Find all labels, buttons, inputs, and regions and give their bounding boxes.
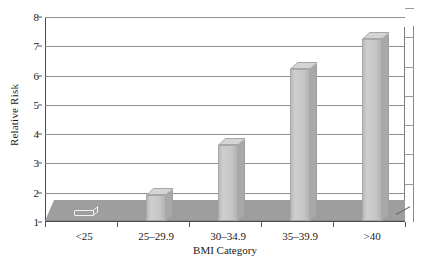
bar-side-face bbox=[382, 34, 389, 221]
gridline-depth bbox=[405, 154, 414, 155]
gridline-depth bbox=[405, 8, 414, 9]
bar[interactable] bbox=[290, 69, 310, 221]
bar-chart: Relative Risk 87654321 <2525–29.930–34.9… bbox=[0, 0, 434, 269]
y-axis-title-label: Relative Risk bbox=[8, 84, 20, 146]
bar-front-face bbox=[362, 39, 382, 221]
x-axis-tick-label: 25–29.9 bbox=[138, 229, 174, 243]
y-axis-title: Relative Risk bbox=[2, 0, 26, 230]
gridline-depth bbox=[405, 37, 414, 38]
bar[interactable] bbox=[362, 39, 382, 221]
x-axis-tick-label: 30–34.9 bbox=[210, 229, 246, 243]
y-axis-tick-mark bbox=[38, 46, 42, 47]
bar-side-face bbox=[238, 139, 245, 221]
plot-right-wall bbox=[405, 26, 414, 222]
y-axis-tick-mark bbox=[38, 134, 42, 135]
bar-side-face bbox=[310, 63, 317, 221]
x-axis-tick-label: 35–39.9 bbox=[282, 229, 318, 243]
x-axis-title: BMI Category bbox=[45, 244, 405, 256]
y-axis-tick-mark bbox=[38, 163, 42, 164]
bar-front-face bbox=[218, 145, 238, 221]
gridline-depth bbox=[405, 184, 414, 185]
x-axis-tick-label: <25 bbox=[76, 229, 93, 243]
x-axis-tick-mark bbox=[405, 222, 406, 227]
gridline-depth bbox=[405, 96, 414, 97]
x-axis-labels: <2525–29.930–34.935–39.9>40 bbox=[45, 229, 414, 245]
y-axis-tick-mark bbox=[38, 104, 42, 105]
y-axis-tick-mark bbox=[38, 222, 42, 223]
bar-front-face bbox=[146, 195, 166, 221]
bar[interactable] bbox=[146, 195, 166, 221]
y-axis-tick-mark bbox=[38, 17, 42, 18]
bar-flat-face bbox=[74, 210, 94, 216]
x-axis-tick-mark bbox=[117, 222, 118, 227]
x-axis-tick-mark bbox=[45, 222, 46, 227]
x-axis-tick-mark bbox=[189, 222, 190, 227]
bar[interactable] bbox=[218, 145, 238, 221]
gridline-depth bbox=[405, 67, 414, 68]
x-axis-tick-mark bbox=[261, 222, 262, 227]
x-axis-ticks bbox=[45, 222, 405, 229]
y-axis-tick-mark bbox=[38, 192, 42, 193]
x-axis-tick-mark bbox=[333, 222, 334, 227]
x-axis-tick-label: >40 bbox=[364, 229, 381, 243]
y-axis-ticks: 87654321 bbox=[24, 0, 42, 240]
plot-area bbox=[45, 17, 405, 222]
y-axis-tick-mark bbox=[38, 75, 42, 76]
bar-side-face bbox=[166, 189, 173, 221]
bar-front-face bbox=[290, 69, 310, 221]
gridline-depth bbox=[405, 125, 414, 126]
bar-series bbox=[45, 17, 405, 222]
